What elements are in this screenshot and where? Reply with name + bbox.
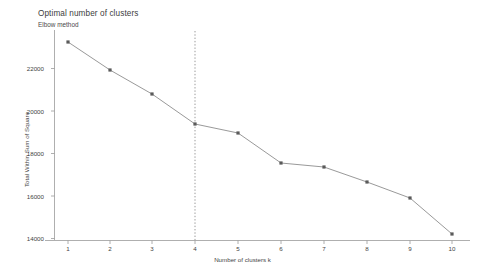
data-point xyxy=(193,122,196,125)
wss-markers xyxy=(66,40,453,235)
y-tick-marks xyxy=(51,69,55,239)
y-tick-label: 16000 xyxy=(14,193,44,200)
x-tick-label: 6 xyxy=(269,245,293,252)
data-point xyxy=(150,92,153,95)
wss-line xyxy=(68,42,452,234)
data-point xyxy=(108,68,111,71)
x-tick-label: 5 xyxy=(226,245,250,252)
data-point xyxy=(365,180,368,183)
x-tick-label: 3 xyxy=(140,245,164,252)
x-tick-label: 1 xyxy=(56,245,80,252)
data-point xyxy=(236,131,239,134)
data-point xyxy=(322,165,325,168)
data-point xyxy=(450,232,453,235)
x-tick-label: 8 xyxy=(355,245,379,252)
x-tick-label: 4 xyxy=(183,245,207,252)
chart-subtitle: Elbow method xyxy=(38,21,79,28)
y-tick-label: 18000 xyxy=(14,150,44,157)
data-point xyxy=(279,161,282,164)
y-tick-label: 20000 xyxy=(14,108,44,115)
plot-area xyxy=(0,0,485,272)
x-tick-label: 2 xyxy=(98,245,122,252)
x-axis-label: Number of clusters k xyxy=(0,256,485,263)
x-tick-label: 7 xyxy=(312,245,336,252)
elbow-method-chart: Optimal number of clusters Elbow method … xyxy=(0,0,485,272)
x-tick-marks xyxy=(68,241,452,245)
data-point xyxy=(66,40,69,43)
data-point xyxy=(408,196,411,199)
x-tick-label: 9 xyxy=(398,245,422,252)
x-tick-label: 10 xyxy=(440,245,464,252)
y-tick-label: 22000 xyxy=(14,65,44,72)
y-tick-label: 14000 xyxy=(14,235,44,242)
chart-title: Optimal number of clusters xyxy=(38,9,138,18)
